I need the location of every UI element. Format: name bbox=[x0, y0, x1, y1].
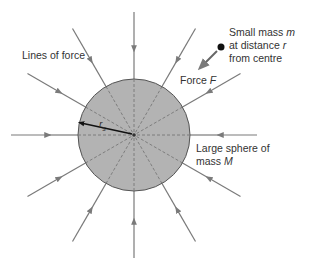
force-arrow bbox=[202, 51, 217, 66]
label-large-sphere: Large sphere of mass M bbox=[196, 142, 270, 168]
field-line bbox=[27, 74, 59, 92]
field-line bbox=[177, 210, 195, 242]
field-line bbox=[73, 210, 91, 242]
small-mass bbox=[218, 44, 225, 51]
field-line bbox=[27, 178, 59, 196]
field-line bbox=[177, 28, 195, 60]
field-line bbox=[209, 178, 241, 196]
label-small-mass: Small mass m at distance r from centre bbox=[229, 26, 295, 65]
label-force: Force F bbox=[180, 74, 216, 87]
label-lines-of-force: Lines of force bbox=[22, 49, 85, 62]
label-radius: rs bbox=[99, 118, 106, 135]
